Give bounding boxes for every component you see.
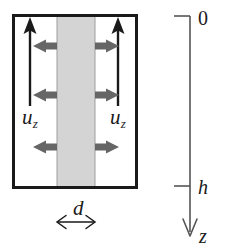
velocity-label-left-subscript: z [33, 116, 38, 131]
flux-arrow-right-2 [95, 89, 119, 102]
axis-label-depth: h [198, 177, 208, 197]
velocity-label-right-base: u [110, 105, 121, 129]
flux-arrow-left-2 [33, 89, 57, 102]
velocity-label-left-base: u [22, 105, 33, 129]
flux-arrow-right-3 [95, 141, 119, 154]
thickness-label: d [73, 198, 84, 219]
velocity-label-right: uz [110, 107, 126, 130]
flux-arrow-left-1 [33, 40, 57, 53]
velocity-profile-diagram: uz uz d 0 h z [0, 0, 225, 250]
velocity-label-right-subscript: z [121, 116, 126, 131]
flux-arrow-left-3 [33, 141, 57, 154]
axis-label-name: z [199, 226, 207, 246]
velocity-label-left: uz [22, 107, 38, 130]
axis-label-origin: 0 [198, 8, 208, 28]
flux-arrow-right-1 [95, 40, 119, 53]
velocity-arrow-left [24, 17, 37, 106]
gray-band [57, 15, 95, 188]
depth-axis [174, 16, 197, 236]
